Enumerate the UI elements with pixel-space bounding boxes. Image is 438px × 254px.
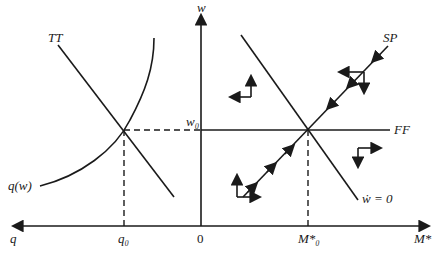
direction-arrows-upper-left <box>231 77 251 97</box>
tt-line <box>58 45 174 197</box>
wdot-zero-line <box>241 35 358 200</box>
tt-label: TT <box>48 30 63 45</box>
wdot-zero-label: ẇ = 0 <box>362 191 393 206</box>
qw-curve <box>40 38 154 186</box>
direction-arrows-lower-left <box>237 176 259 197</box>
qw-label: q(w) <box>8 178 32 193</box>
ff-label: FF <box>393 122 411 137</box>
phase-diagram: w q M* 0 w₀ q₀ M*₀ TT q(w) SP FF ẇ = 0 <box>0 0 438 254</box>
m0-label: M*₀ <box>297 231 320 246</box>
sp-lower-arrows <box>248 146 293 192</box>
w-axis-label: w <box>197 0 206 15</box>
q0-label: q₀ <box>118 231 129 246</box>
q-axis-label: q <box>10 231 17 246</box>
m-axis-label: M* <box>413 231 432 246</box>
sp-label: SP <box>383 30 398 45</box>
direction-arrows-lower-right <box>358 148 380 166</box>
w0-label: w₀ <box>186 114 199 129</box>
origin-label: 0 <box>197 231 204 246</box>
